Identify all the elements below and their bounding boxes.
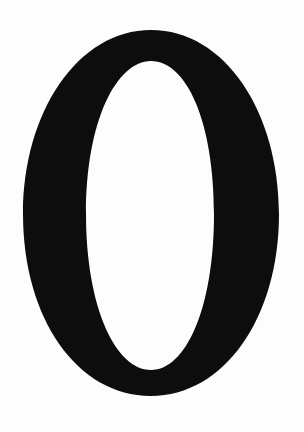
numeral-zero-glyph bbox=[0, 0, 304, 432]
image-canvas: 0 bbox=[0, 0, 304, 432]
